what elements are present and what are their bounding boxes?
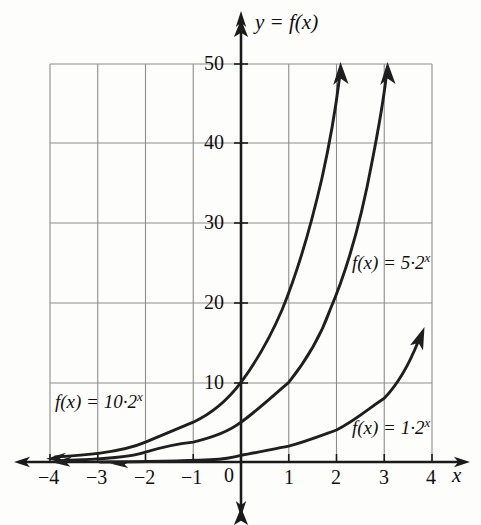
curve-1-times-2-to-x bbox=[100, 342, 418, 462]
curve-label-10-text: f(x) = 10·2 bbox=[55, 391, 137, 412]
curve-label-5-text: f(x) = 5·2 bbox=[352, 252, 424, 273]
curve-label-1: f(x) = 1·2x bbox=[352, 417, 430, 439]
curve-label-5: f(x) = 5·2x bbox=[352, 252, 430, 274]
x-tick-label-minus-4: −4 bbox=[38, 466, 59, 489]
curve-10-arrow-up bbox=[333, 62, 348, 85]
x-tick-label-1: 1 bbox=[284, 466, 294, 489]
y-tick-label-40: 40 bbox=[204, 131, 224, 154]
x-tick-label-4: 4 bbox=[426, 466, 436, 489]
curve-5-arrow-up bbox=[380, 62, 395, 85]
x-tick-label-zero: 0 bbox=[224, 464, 234, 487]
x-tick-label-3: 3 bbox=[379, 466, 389, 489]
y-axis-label: y = f(x) bbox=[255, 10, 318, 35]
curve-label-10: f(x) = 10·2x bbox=[55, 391, 143, 413]
curve-label-1-exponent: x bbox=[424, 415, 430, 430]
x-tick-label-2: 2 bbox=[331, 466, 341, 489]
curve-label-5-exponent: x bbox=[424, 250, 430, 265]
x-tick-label-minus-1: −1 bbox=[181, 466, 202, 489]
graph-figure: y = f(x) x 50 40 30 20 10 −4 −3 −2 −1 0 … bbox=[0, 0, 481, 525]
x-tick-label-minus-3: −3 bbox=[86, 466, 107, 489]
y-tick-label-50: 50 bbox=[204, 52, 224, 75]
x-axis-label: x bbox=[452, 463, 461, 488]
y-tick-label-30: 30 bbox=[204, 211, 224, 234]
y-tick-label-20: 20 bbox=[204, 291, 224, 314]
x-tick-label-minus-2: −2 bbox=[134, 466, 155, 489]
y-tick-label-10: 10 bbox=[204, 371, 224, 394]
curve-label-1-text: f(x) = 1·2 bbox=[352, 417, 424, 438]
curve-label-10-exponent: x bbox=[137, 389, 143, 404]
